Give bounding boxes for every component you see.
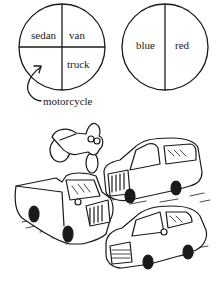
vehicle-color-circle xyxy=(122,4,208,90)
motorcycle-icon xyxy=(50,123,103,173)
section-label-truck: truck xyxy=(67,59,90,70)
pickup-truck-icon xyxy=(15,173,113,244)
section-label-red: red xyxy=(175,40,189,51)
section-label-blue: blue xyxy=(136,40,155,51)
vehicles-illustration xyxy=(15,123,210,269)
diagram: sedan van truck blue red motorcycle xyxy=(0,0,221,282)
sedan-icon xyxy=(106,206,207,269)
section-label-sedan: sedan xyxy=(31,30,56,41)
vehicle-type-circle xyxy=(19,4,105,90)
van-icon xyxy=(104,138,202,203)
section-label-van: van xyxy=(69,30,85,41)
callout-label-motorcycle: motorcycle xyxy=(43,96,92,107)
